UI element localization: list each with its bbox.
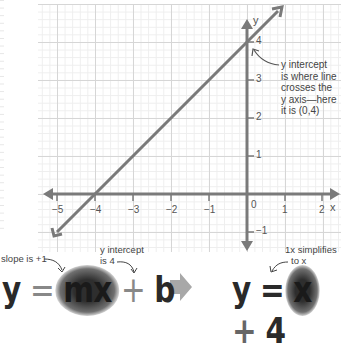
simplify-note-line: to x [279,255,337,266]
x-axis-right-arrow-icon [330,188,340,200]
callout-line: y intercept [281,59,337,71]
y-tick-label: 4 [256,35,262,46]
x-tick-label: −2 [166,204,177,215]
y-tick-label: 2 [256,111,262,122]
callout-line: y axis—here [281,94,337,106]
callout-curved-arrow-icon [254,50,279,65]
simplify-note: 1x simplifies to x [279,244,337,266]
y-axis-up-arrow-icon [241,19,253,29]
intercept-note-line: is 4 [100,255,144,266]
eq-equals: = [260,269,284,310]
eq-four: 4 [265,310,285,347]
intercept-note: y intercept is 4 [100,244,144,266]
y-intercept-callout: y intercept is where line crosses the y … [281,59,337,117]
x-axis [43,188,340,201]
eq-b: b [154,269,174,310]
highlight-x: x [293,269,311,310]
specific-equation: y = x + 4 [232,269,323,347]
slope-note: slope is +1 [1,253,47,264]
x-axis-left-arrow-icon [43,188,53,200]
intercept-note-line: y intercept [100,244,144,255]
simplify-note-line: 1x simplifies [279,244,337,255]
eq-y: y [232,269,250,310]
x-tick-label: −3 [128,204,139,215]
eq-plus: + [232,310,256,347]
eq-mx: mx [63,269,111,310]
eq-x: x [293,269,311,310]
highlight-mx: mx [63,269,111,310]
y-tick-label: 3 [256,73,262,84]
y-tick-label: −1 [256,225,267,236]
callout-line: it is (0,4) [281,105,337,117]
eq-y: y [2,269,20,310]
x-tick-label: −1 [204,204,215,215]
x-tick-label: −4 [90,204,101,215]
callout-line: crosses the [281,82,337,94]
x-axis-label: x [330,201,336,213]
eq-plus: + [121,269,145,310]
y-axis-down-arrow-icon [241,241,253,251]
y-tick-label: 1 [256,149,262,160]
general-equation: y = mx + b [2,269,175,310]
eq-equals: = [30,269,54,310]
callout-line: is where line [281,71,337,83]
x-tick-label: −5 [52,204,63,215]
x-tick-label: 1 [282,204,288,215]
x-tick-label: 2 [319,204,325,215]
y-axis-label: y [253,14,259,26]
origin-label: 0 [251,199,257,210]
